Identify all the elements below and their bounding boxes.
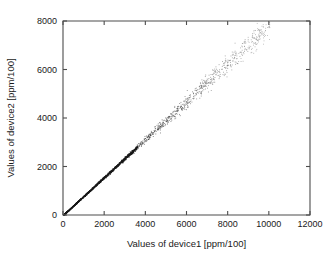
scatter-point [235,43,236,44]
x-tick-label: 12000 [297,219,322,229]
scatter-point [99,182,100,183]
scatter-point [260,32,261,33]
scatter-point [171,120,172,121]
scatter-point [201,79,202,80]
scatter-point [133,151,134,152]
scatter-point [252,37,253,38]
scatter-point [214,79,215,80]
scatter-point [103,178,104,179]
scatter-point [229,60,230,61]
scatter-point [242,46,243,47]
scatter-point [257,28,258,29]
scatter-point [213,79,214,80]
scatter-point [232,57,233,58]
scatter-point [108,175,109,176]
scatter-point [144,141,145,142]
scatter-point [227,76,228,77]
figure-background [0,0,335,255]
scatter-point [147,137,148,138]
scatter-point [217,70,218,71]
scatter-point [202,82,203,83]
scatter-point [253,30,254,31]
scatter-point [258,34,259,35]
scatter-point [206,86,207,87]
scatter-point [66,212,67,213]
scatter-point [240,56,241,57]
scatter-point [230,66,231,67]
scatter-point [256,51,257,52]
scatter-point [243,53,244,54]
scatter-point [143,143,144,144]
x-axis-title: Values of device1 [ppm/100] [127,238,246,249]
scatter-point [224,75,225,76]
scatter-point [103,179,104,180]
scatter-point [160,126,161,127]
scatter-point [171,117,172,118]
scatter-point [236,52,237,53]
scatter-point [196,99,197,100]
scatter-point [190,101,191,102]
scatter-point [167,123,168,124]
scatter-point [122,161,123,162]
scatter-point [89,191,90,192]
scatter-point [216,74,217,75]
scatter-point [146,135,147,136]
scatter-point [232,52,233,53]
scatter-point [187,105,188,106]
scatter-point [212,80,213,81]
x-tick-label: 2000 [94,219,114,229]
scatter-point [174,116,175,117]
scatter-point [162,126,163,127]
scatter-point [132,151,133,152]
scatter-point [183,101,184,102]
scatter-point [204,86,205,87]
scatter-point [244,46,245,47]
x-tick-label: 0 [60,219,65,229]
scatter-point [256,44,257,45]
scatter-point [263,33,264,34]
scatter-point [234,57,235,58]
scatter-point [254,33,255,34]
scatter-point [266,24,267,25]
scatter-point [227,65,228,66]
scatter-point [176,111,177,112]
scatter-point [219,78,220,79]
scatter-point [205,89,206,90]
scatter-point [106,175,107,176]
scatter-point [159,122,160,123]
scatter-point [220,74,221,75]
scatter-point [269,27,270,28]
scatter-point [199,89,200,90]
scatter-point [109,172,110,173]
scatter-point [187,100,188,101]
scatter-point [238,53,239,54]
y-tick-label: 2000 [37,162,57,172]
scatter-point [111,171,112,172]
scatter-point [149,138,150,139]
scatter-point [232,55,233,56]
scatter-point [256,36,257,37]
scatter-point [139,146,140,147]
scatter-point [201,96,202,97]
scatter-point [200,88,201,89]
scatter-point [197,89,198,90]
scatter-point [203,86,204,87]
scatter-point [172,116,173,117]
scatter-point [155,128,156,129]
scatter-point [185,100,186,101]
scatter-point [159,127,160,128]
scatter-point [222,69,223,70]
scatter-point [218,71,219,72]
scatter-point [145,140,146,141]
scatter-point [226,70,227,71]
scatter-point [75,203,76,204]
scatter-point [138,143,139,144]
scatter-point [248,39,249,40]
scatter-point [263,44,264,45]
scatter-point [202,90,203,91]
scatter-point [213,76,214,77]
scatter-point [255,34,256,35]
scatter-point [155,126,156,127]
scatter-point [85,194,86,195]
scatter-point [244,42,245,43]
